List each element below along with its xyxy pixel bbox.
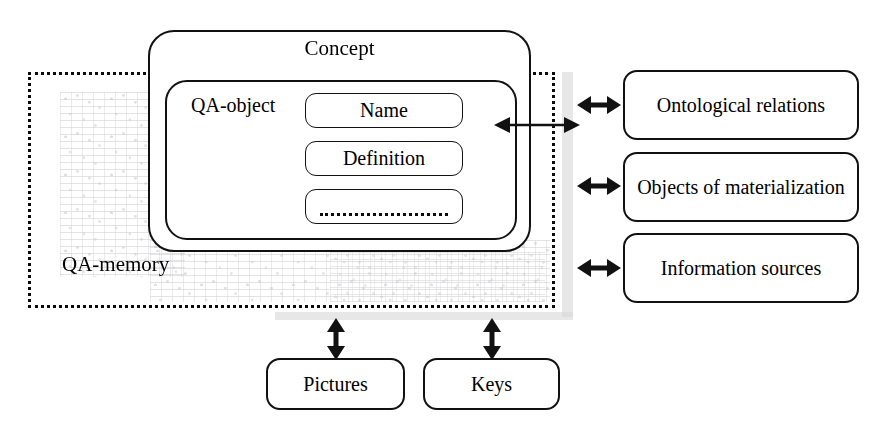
connector-to-keys	[480, 318, 504, 360]
bottom-box-label-keys: Keys	[471, 373, 512, 396]
ellipsis-dots-icon	[320, 213, 448, 216]
bottom-box-label-pictures: Pictures	[303, 373, 367, 396]
concept-label: Concept	[305, 37, 375, 61]
connector-concept-to-boundary	[494, 112, 580, 138]
connector-to-pictures	[324, 318, 348, 360]
side-box-objects-of-materialization[interactable]: Objects of materialization	[623, 152, 859, 222]
side-box-label-information-sources: Information sources	[661, 257, 822, 280]
diagram-canvas: QA-memory Concept QA-object Name Definit…	[0, 0, 889, 435]
field-label-definition: Definition	[343, 147, 425, 170]
field-box-continuation[interactable]	[305, 189, 463, 224]
qa-memory-label: QA-memory	[62, 252, 169, 277]
connector-to-information-sources	[577, 256, 621, 280]
connector-to-ontological-relations	[577, 93, 621, 117]
connector-to-objects-of-materialization	[577, 174, 621, 198]
field-box-definition[interactable]: Definition	[305, 141, 463, 176]
region-shadow-bottom	[275, 312, 573, 320]
side-box-label-objects-of-materialization: Objects of materialization	[637, 176, 845, 199]
side-box-information-sources[interactable]: Information sources	[623, 233, 859, 303]
region-shadow-right	[562, 72, 573, 317]
field-label-name: Name	[360, 99, 408, 122]
side-box-ontological-relations[interactable]: Ontological relations	[623, 70, 859, 140]
bottom-box-pictures[interactable]: Pictures	[266, 358, 405, 410]
field-box-name[interactable]: Name	[305, 93, 463, 128]
side-box-label-ontological-relations: Ontological relations	[657, 94, 825, 117]
bottom-box-keys[interactable]: Keys	[423, 358, 560, 410]
qa-object-label: QA-object	[191, 94, 275, 117]
